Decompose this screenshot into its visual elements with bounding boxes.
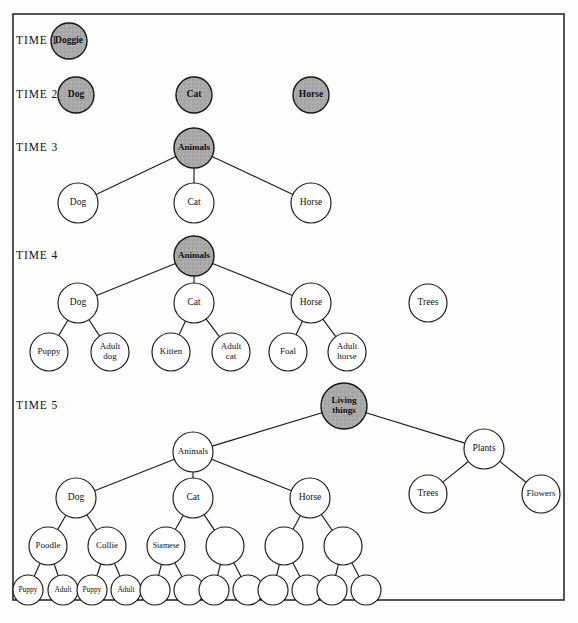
node-t5-horse2-child-1 [317,575,347,605]
edge-t5-living-things-to-t5-animals [212,413,322,446]
node-label-line: Siamese [153,541,180,550]
node-label-t2-dog: Dog [68,89,85,99]
edge-t5-poodle-to-t5-poodle-adult [54,564,58,576]
node-label-t5-dog: Dog [68,492,85,502]
node-label-line: Horse [300,297,323,307]
node-label-line: Animals [178,446,209,456]
node-label-line: Horse [299,492,322,502]
node-t5-horse-breed-2 [324,527,362,565]
node-t4-horse: Horse [291,283,331,323]
time-label-time-1: TIME 1 [16,34,58,46]
node-label-line: Animals [178,142,211,152]
node-t5-poodle-adult: Adult [48,575,78,605]
node-t5-collie-puppy: Puppy [77,575,107,605]
node-t5-collie: Collie [88,527,126,565]
node-t5-cat2-child-1 [199,575,229,605]
edge-t5-cat-breed-2-to-t5-cat2-child-2 [234,563,241,577]
figure-container: DoggieDogCatHorseAnimalsDogCatHorseAnima… [0,0,578,623]
node-t5-horse2-child-2 [351,575,381,605]
node-circle-t5-cat-breed-2 [206,527,244,565]
edge-t5-dog-to-t5-collie [87,515,97,530]
node-t5-siamese: Siamese [147,527,185,565]
node-label-t1-doggie: Doggie [55,35,83,45]
node-label-line: Puppy [82,585,101,594]
node-label-line: Animals [178,250,211,260]
node-label-t4-puppy: Puppy [37,346,61,356]
node-t5-siamese-child-1 [140,575,170,605]
node-t3-horse: Horse [291,183,331,223]
node-label-t5-plants: Plants [472,443,496,453]
edge-t5-horse-breed-1-to-t5-horse1-child-1 [277,564,280,575]
node-label-line: Cat [187,197,201,207]
node-t5-poodle: Poodle [29,527,67,565]
node-t5-plants: Plants [464,429,504,469]
node-label-line: Plants [472,443,496,453]
node-t3-dog: Dog [58,183,98,223]
edge-t4-animals-to-t4-dog [97,264,176,296]
node-label-line: Cat [187,89,203,99]
node-label-line: Horse [300,197,323,207]
node-circle-t5-horse1-child-1 [258,575,288,605]
node-label-t5-living-things: Livingthings [331,395,357,415]
hierarchy-development-diagram: DoggieDogCatHorseAnimalsDogCatHorseAnima… [0,0,578,623]
edge-t5-horse-breed-1-to-t5-horse1-child-2 [293,563,300,577]
node-label-line: Puppy [18,585,37,594]
edge-t5-dog-to-t5-poodle [58,515,66,529]
node-t5-horse: Horse [290,478,330,518]
edge-t4-horse-to-t4-adult-horse [323,319,336,337]
edge-t5-horse-to-t5-horse-breed-2 [321,514,332,530]
node-label-line: Dog [68,492,85,502]
node-label-line: Horse [299,89,323,99]
node-label-t4-adult-horse: Adulthorse [337,341,358,361]
edge-t5-animals-to-t5-horse [212,459,292,490]
nodes-layer: DoggieDogCatHorseAnimalsDogCatHorseAnima… [13,23,560,605]
node-label-t5-cat: Cat [186,492,200,502]
node-label-line: Collie [96,540,118,550]
node-circle-t5-horse-breed-1 [265,527,303,565]
edge-t5-collie-to-t5-collie-puppy [97,564,101,576]
node-t2-dog: Dog [58,77,94,113]
time-label-time-4: TIME 4 [16,249,58,261]
node-label-line: Dog [68,89,85,99]
node-label-line: Dog [70,297,87,307]
node-label-t4-horse: Horse [300,297,323,307]
node-label-t2-cat: Cat [187,89,203,99]
node-t5-dog: Dog [56,478,96,518]
edge-t3-animals-to-t3-horse [212,157,293,195]
node-label-t5-horse: Horse [299,492,322,502]
node-label-line: Cat [186,492,200,502]
node-circle-t5-horse2-child-2 [351,575,381,605]
node-t5-living-things: Livingthings [321,383,367,429]
node-label-line: Adult [54,585,72,594]
node-t4-trees: Trees [409,284,447,322]
node-label-t5-collie-puppy: Puppy [82,585,101,594]
edge-t5-cat-to-t5-siamese [175,515,183,529]
node-t4-foal: Foal [269,333,307,371]
node-label-line: Doggie [55,35,83,45]
time-label-time-2: TIME 2 [16,88,58,100]
node-label-t5-collie: Collie [96,540,118,550]
node-label-line: horse [337,351,357,361]
node-t2-cat: Cat [176,77,212,113]
edge-t5-plants-to-t5-trees [443,462,469,483]
node-label-line: Living [331,395,357,405]
edge-t4-dog-to-t4-puppy [59,320,68,335]
node-t5-flowers: Flowers [522,475,560,513]
node-label-line: Adult [337,341,358,351]
node-t4-dog: Dog [58,283,98,323]
node-label-t3-animals: Animals [178,142,211,152]
node-label-t5-poodle: Poodle [35,540,60,550]
edge-t5-living-things-to-t5-plants [366,413,465,443]
node-t5-poodle-puppy: Puppy [13,575,43,605]
node-label-t4-trees: Trees [418,297,439,307]
node-circle-t5-siamese-child-1 [140,575,170,605]
node-label-line: things [332,405,356,415]
node-label-line: Kitten [160,346,183,356]
node-t4-cat: Cat [174,283,214,323]
node-t5-animals: Animals [173,432,213,472]
edge-t5-horse-breed-2-to-t5-horse2-child-2 [352,563,359,577]
node-t5-horse1-child-1 [258,575,288,605]
node-label-line: cat [226,351,237,361]
edge-t4-cat-to-t4-adult-cat [206,319,220,337]
edge-t4-dog-to-t4-adult-dog [89,320,100,336]
